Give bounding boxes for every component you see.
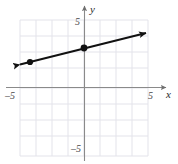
data-point-y-intercept [81, 45, 88, 52]
y-axis-tick-label-negative-5: –5 [71, 144, 81, 154]
x-axis-tick-label-negative-5: –5 [5, 91, 15, 101]
data-point-left [27, 59, 33, 65]
graph-figure: –5 5 5 –5 x y [0, 0, 178, 164]
coordinate-plane-svg [0, 0, 178, 164]
x-axis-tick-label-positive-5: 5 [148, 91, 153, 101]
y-axis-tick-label-positive-5: 5 [75, 17, 80, 27]
x-axis-name-label: x [166, 89, 171, 100]
y-axis-name-label: y [90, 4, 95, 15]
